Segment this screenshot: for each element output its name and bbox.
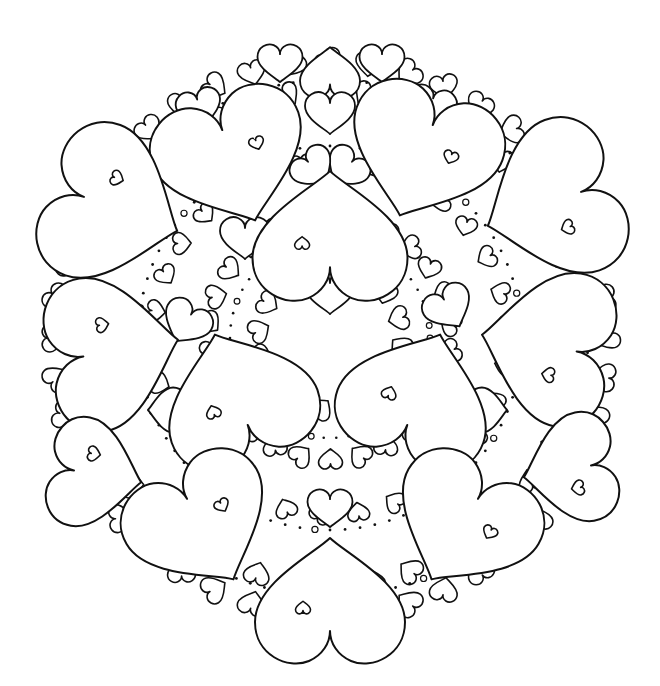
dot-ornament (284, 523, 287, 526)
large-heart-icon (367, 433, 560, 617)
dot-ornament (322, 437, 325, 440)
small-heart-icon (414, 255, 443, 282)
dot-ornament (232, 312, 235, 315)
dot-ornament (229, 324, 232, 327)
small-heart-icon (204, 282, 229, 310)
dot-ornament (165, 437, 168, 440)
dot-ornament (402, 514, 405, 517)
dot-ornament (492, 236, 495, 239)
dot-ornament (408, 582, 411, 585)
small-heart-icon (152, 261, 181, 289)
dot-ornament (299, 147, 302, 150)
dot-ornament (416, 289, 419, 292)
small-heart-icon (473, 244, 499, 272)
dot-ornament (484, 224, 487, 227)
heart-mandala-artwork (0, 0, 660, 686)
small-heart-icon (318, 449, 342, 469)
medium-heart-icon (360, 44, 405, 82)
large-heart-icon (255, 538, 405, 664)
dot-ornament (463, 199, 469, 205)
dot-ornament (335, 437, 338, 440)
small-heart-icon (245, 315, 274, 346)
medium-heart-icon (308, 489, 353, 527)
dot-ornament (249, 582, 252, 585)
dot-ornament (312, 526, 318, 532)
dot-ornament (484, 449, 487, 452)
dot-ornament (263, 586, 266, 589)
medium-heart-icon (305, 92, 355, 134)
small-heart-icon (272, 496, 299, 521)
dot-ornament (248, 278, 251, 281)
dot-ornament (181, 210, 187, 216)
dot-ornament (151, 263, 154, 266)
dot-ornament (388, 519, 391, 522)
dot-ornament (329, 145, 332, 148)
small-heart-icon (385, 304, 411, 333)
dot-ornament (329, 529, 332, 532)
dot-ornament (373, 523, 376, 526)
small-heart-icon (487, 279, 512, 306)
dot-ornament (421, 575, 427, 581)
dot-ornament (475, 212, 478, 215)
dot-ornament (234, 298, 240, 304)
dot-ornament (142, 292, 145, 295)
dot-ornament (269, 519, 272, 522)
dot-ornament (500, 249, 503, 252)
dot-ornament (500, 424, 503, 427)
dot-ornament (292, 81, 295, 84)
dot-ornament (359, 526, 362, 529)
dot-ornament (235, 577, 238, 580)
dot-ornament (299, 526, 302, 529)
small-heart-icon (242, 559, 273, 587)
dot-ornament (511, 396, 514, 399)
dot-ornament (491, 435, 497, 441)
dot-ornament (508, 152, 511, 155)
dot-ornament (158, 249, 161, 252)
dot-ornament (511, 277, 514, 280)
dot-ornament (365, 81, 368, 84)
dot-ornament (344, 528, 347, 531)
dot-ornament (277, 84, 280, 87)
small-heart-icon (215, 254, 245, 285)
dot-ornament (241, 289, 244, 292)
small-heart-icon (453, 215, 479, 239)
dot-ornament (410, 278, 413, 281)
dot-ornament (514, 290, 520, 296)
dot-ornament (426, 323, 432, 329)
dot-ornament (146, 277, 149, 280)
medium-heart-icon (258, 44, 303, 82)
small-heart-icon (172, 232, 191, 255)
dot-ornament (394, 586, 397, 589)
dot-ornament (506, 263, 509, 266)
